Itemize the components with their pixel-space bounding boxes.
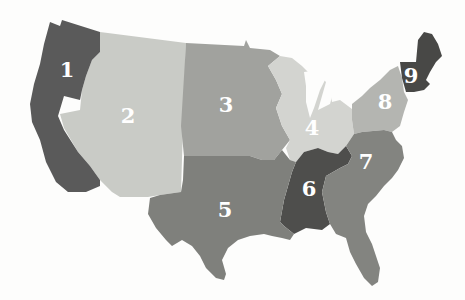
region-label-6: 6 [302, 176, 317, 201]
region-label-7: 7 [359, 149, 374, 174]
us-regions-map: 1 2 3 4 5 6 7 8 9 [0, 0, 465, 300]
region-label-9: 9 [404, 63, 419, 88]
region-label-3: 3 [219, 92, 234, 117]
map-canvas: 1 2 3 4 5 6 7 8 9 [0, 0, 465, 300]
region-label-5: 5 [218, 197, 233, 222]
region-3[interactable] [181, 40, 290, 160]
region-label-2: 2 [121, 103, 136, 128]
region-label-4: 4 [305, 115, 320, 140]
region-label-8: 8 [378, 89, 393, 114]
region-label-1: 1 [60, 57, 75, 82]
